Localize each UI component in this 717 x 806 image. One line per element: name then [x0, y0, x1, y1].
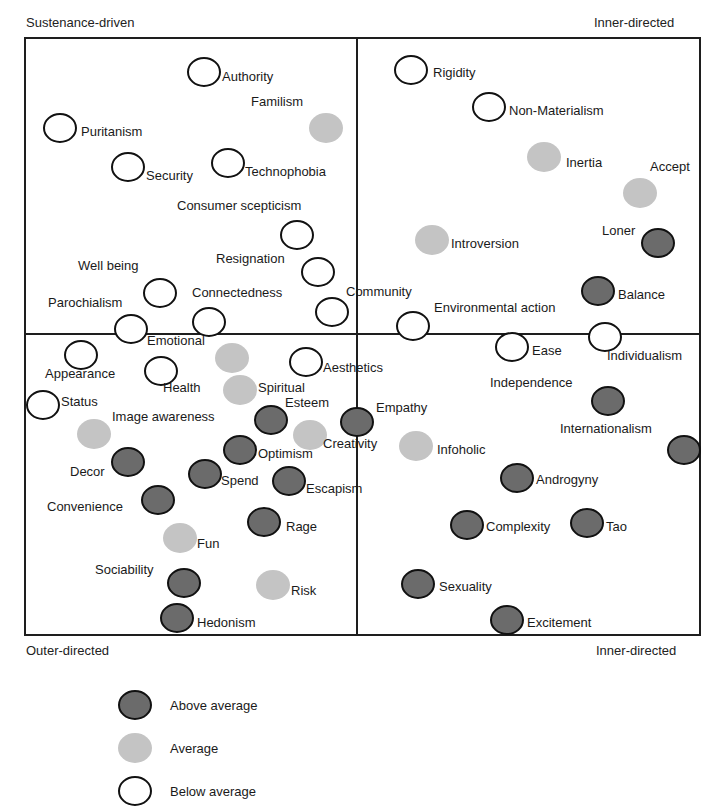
tao-circle-icon: [570, 508, 604, 538]
infoholic-circle-icon: [399, 431, 433, 461]
hedonism-label: Hedonism: [197, 615, 256, 630]
fun-label: Fun: [197, 536, 219, 551]
puritanism-circle-icon: [43, 113, 77, 143]
escapism-label: Escapism: [306, 481, 362, 496]
image-awareness-circle-icon: [77, 419, 111, 449]
emotional-circle-icon: [215, 343, 249, 373]
consumer-scepticism-label: Consumer scepticism: [177, 198, 301, 213]
decor-circle-icon: [111, 447, 145, 477]
aesthetics-circle-icon: [289, 347, 323, 377]
sexuality-label: Sexuality: [439, 579, 492, 594]
accept-label: Accept: [650, 159, 690, 174]
accept-circle-icon: [623, 178, 657, 208]
empathy-label: Empathy: [376, 400, 427, 415]
rage-circle-icon: [247, 507, 281, 537]
image-awareness-label: Image awareness: [112, 409, 215, 424]
resignation-label: Resignation: [216, 251, 285, 266]
environmental-action-label: Environmental action: [434, 300, 555, 315]
convenience-label: Convenience: [47, 499, 123, 514]
internationalism-label: Internationalism: [560, 421, 652, 436]
inertia-circle-icon: [527, 142, 561, 172]
introversion-label: Introversion: [451, 236, 519, 251]
environmental-action-circle-icon: [396, 311, 430, 341]
creativity-label: Creativity: [323, 436, 377, 451]
sociability-circle-icon: [167, 568, 201, 598]
empathy-circle-icon: [340, 407, 374, 437]
optimism-circle-icon: [223, 435, 257, 465]
technophobia-label: Technophobia: [245, 164, 326, 179]
risk-circle-icon: [256, 570, 290, 600]
well-being-label: Well being: [78, 258, 138, 273]
legend-label: Average: [170, 741, 218, 756]
security-label: Security: [146, 168, 193, 183]
connectedness-label: Connectedness: [192, 285, 282, 300]
legend-label: Below average: [170, 784, 256, 799]
spend-circle-icon: [188, 459, 222, 489]
legend-average-circle-icon: [118, 733, 152, 763]
androgyny-circle-icon: [500, 463, 534, 493]
legend-below-circle-icon: [118, 776, 152, 806]
tao-label: Tao: [606, 519, 627, 534]
consumer-scepticism-circle-icon: [280, 220, 314, 250]
sociability-label: Sociability: [95, 562, 154, 577]
fun-circle-icon: [163, 523, 197, 553]
esteem-circle-icon: [254, 405, 288, 435]
familism-circle-icon: [309, 113, 343, 143]
complexity-circle-icon: [450, 510, 484, 540]
well-being-circle-icon: [143, 278, 177, 308]
corner-label-top-right: Inner-directed: [594, 15, 674, 30]
technophobia-circle-icon: [211, 148, 245, 178]
spiritual-label: Spiritual: [258, 380, 305, 395]
emotional-label: Emotional: [147, 333, 205, 348]
complexity-label: Complexity: [486, 519, 550, 534]
ease-circle-icon: [495, 332, 529, 362]
sexuality-circle-icon: [401, 569, 435, 599]
independence-circle-icon: [591, 386, 625, 416]
legend-above-circle-icon: [118, 690, 152, 720]
community-label: Community: [346, 284, 412, 299]
vertical-axis-divider: [356, 37, 358, 636]
lifestyle-segmentation-map: Sustenance-driven Inner-directed Outer-d…: [0, 0, 717, 806]
rigidity-circle-icon: [394, 55, 428, 85]
androgyny-label: Androgyny: [536, 472, 598, 487]
risk-label: Risk: [291, 583, 316, 598]
optimism-label: Optimism: [258, 446, 313, 461]
infoholic-label: Infoholic: [437, 442, 485, 457]
rage-label: Rage: [286, 519, 317, 534]
independence-label: Independence: [490, 375, 572, 390]
rigidity-label: Rigidity: [433, 65, 476, 80]
parochialism-circle-icon: [114, 314, 148, 344]
corner-label-bottom-right: Inner-directed: [596, 643, 676, 658]
escapism-circle-icon: [272, 466, 306, 496]
parochialism-label: Parochialism: [48, 295, 122, 310]
balance-label: Balance: [618, 287, 665, 302]
status-label: Status: [61, 394, 98, 409]
puritanism-label: Puritanism: [81, 124, 142, 139]
inertia-label: Inertia: [566, 155, 602, 170]
convenience-circle-icon: [141, 485, 175, 515]
introversion-circle-icon: [415, 225, 449, 255]
familism-label: Familism: [251, 94, 303, 109]
corner-label-top-left: Sustenance-driven: [26, 15, 134, 30]
authority-label: Authority: [222, 69, 273, 84]
legend-label: Above average: [170, 698, 257, 713]
resignation-circle-icon: [301, 257, 335, 287]
health-label: Health: [163, 380, 201, 395]
ease-label: Ease: [532, 343, 562, 358]
esteem-label: Esteem: [285, 395, 329, 410]
excitement-label: Excitement: [527, 615, 591, 630]
non-materialism-circle-icon: [472, 92, 506, 122]
community-circle-icon: [315, 297, 349, 327]
corner-label-bottom-left: Outer-directed: [26, 643, 109, 658]
balance-circle-icon: [581, 276, 615, 306]
appearance-label: Appearance: [45, 366, 115, 381]
loner-label: Loner: [602, 223, 635, 238]
aesthetics-label: Aesthetics: [323, 360, 383, 375]
status-circle-icon: [26, 390, 60, 420]
authority-circle-icon: [187, 57, 221, 87]
decor-label: Decor: [70, 464, 105, 479]
hedonism-circle-icon: [160, 603, 194, 633]
spend-label: Spend: [221, 473, 259, 488]
internationalism-circle-icon: [667, 435, 701, 465]
excitement-circle-icon: [490, 605, 524, 635]
